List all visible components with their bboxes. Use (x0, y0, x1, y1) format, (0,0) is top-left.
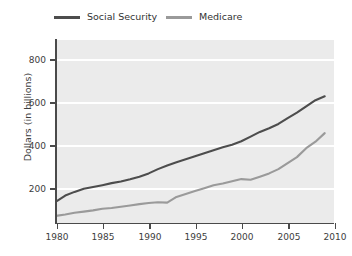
y-tick-600 (50, 102, 56, 103)
x-tick-label-1980: 1980 (37, 233, 77, 242)
x-tick-label-2010: 2010 (315, 233, 352, 242)
x-axis-line (55, 223, 334, 225)
x-tick-label-1985: 1985 (83, 233, 123, 242)
x-tick-2010 (335, 223, 336, 229)
x-tick-1985 (103, 223, 104, 229)
x-tick-label-1995: 1995 (176, 233, 216, 242)
x-tick-2005 (288, 223, 289, 229)
y-tick-800 (50, 59, 56, 60)
y-axis-line (55, 39, 57, 224)
x-tick-label-1990: 1990 (130, 233, 170, 242)
x-tick-1980 (57, 223, 58, 229)
x-tick-label-2000: 2000 (222, 233, 262, 242)
y-axis-title: Dollars (in billions) (23, 42, 33, 192)
series-layer (0, 0, 352, 256)
series-line-medicare (56, 133, 325, 216)
line-chart: Social Security Medicare 800 600 400 200… (0, 0, 352, 256)
x-tick-1995 (196, 223, 197, 229)
x-tick-2000 (242, 223, 243, 229)
y-tick-400 (50, 145, 56, 146)
x-tick-label-2005: 2005 (269, 233, 309, 242)
y-tick-200 (50, 188, 56, 189)
x-tick-1990 (149, 223, 150, 229)
series-line-social-security (56, 96, 325, 201)
